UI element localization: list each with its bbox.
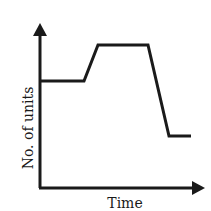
x-axis-label: Time [107, 195, 142, 211]
y-axis-label: No. of units [20, 87, 36, 170]
series-line [40, 45, 191, 136]
x-axis-arrow-icon [192, 181, 205, 195]
y-axis-arrow-icon [33, 23, 47, 36]
line-chart: No. of units Time [0, 0, 211, 211]
